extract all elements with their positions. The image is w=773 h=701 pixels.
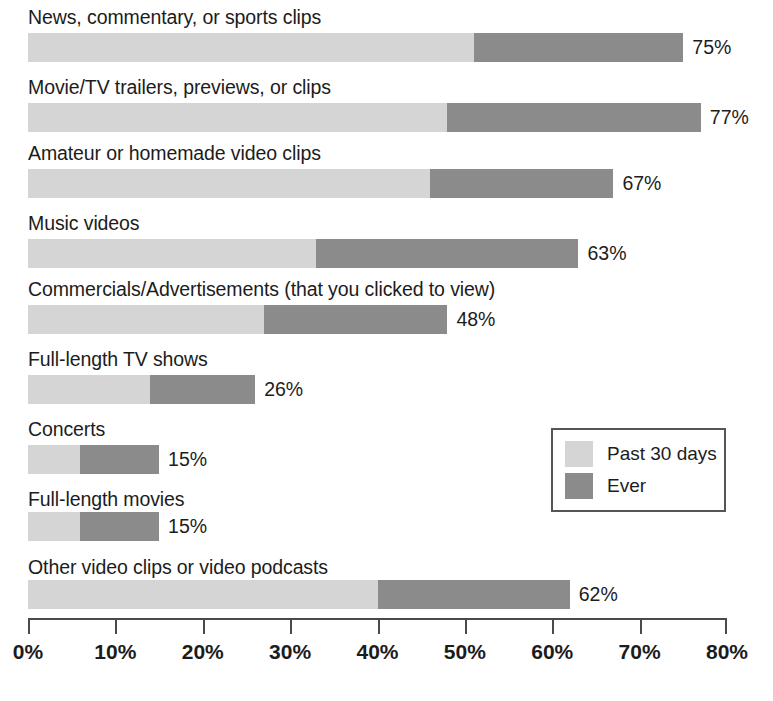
x-axis-tick [465,618,467,634]
bar-segment-past-30-days [28,580,378,609]
bar-value-label: 48% [456,305,495,334]
bar-track [28,375,255,404]
legend-swatch-past-30-days [565,441,593,467]
legend-label-ever: Ever [607,473,646,499]
x-axis-tick-label: 0% [13,640,43,664]
bar-segment-past-30-days [28,512,80,541]
bar-track [28,512,159,541]
legend-swatch-ever [565,473,593,499]
x-axis-tick [203,618,205,634]
category-label: Full-length TV shows [28,348,208,370]
x-axis-tick-label: 70% [619,640,661,664]
x-axis-tick-label: 80% [706,640,748,664]
bar-value-label: 62% [579,580,618,609]
bar-track [28,445,159,474]
bar-segment-past-30-days [28,445,80,474]
bar-segment-past-30-days [28,375,150,404]
x-axis-tick-label: 50% [444,640,486,664]
bar-track [28,33,683,62]
x-axis-tick-label: 30% [269,640,311,664]
legend-item-ever: Ever [565,471,646,501]
x-axis-tick-label: 10% [94,640,136,664]
bar-segment-past-30-days [28,169,430,198]
bar-segment-past-30-days [28,103,447,132]
bar-value-label: 63% [587,239,626,268]
x-axis-tick [640,618,642,634]
x-axis-tick [378,618,380,634]
bar-value-label: 75% [692,33,731,62]
bar-value-label: 26% [264,375,303,404]
bar-segment-past-30-days [28,239,316,268]
x-axis-tick [552,618,554,634]
category-label: News, commentary, or sports clips [28,6,321,28]
bar-segment-ever [430,169,613,198]
category-label: Amateur or homemade video clips [28,142,321,164]
bar-value-label: 77% [710,103,749,132]
bar-segment-ever [316,239,578,268]
bar-segment-ever [378,580,570,609]
x-axis: 0%10%20%30%40%50%60%70%80% [0,618,773,698]
bar-value-label: 15% [168,445,207,474]
bar-segment-past-30-days [28,33,474,62]
bar-track [28,239,578,268]
x-axis-tick [290,618,292,634]
bar-segment-ever [150,375,255,404]
x-axis-tick [28,618,30,634]
category-label: Concerts [28,418,105,440]
category-label: Commercials/Advertisements (that you cli… [28,278,495,300]
bar-segment-ever [80,512,159,541]
bar-segment-ever [474,33,684,62]
category-label: Full-length movies [28,488,184,510]
bar-segment-ever [447,103,700,132]
stacked-bar-chart: News, commentary, or sports clips75%Movi… [0,0,773,701]
bar-value-label: 67% [622,169,661,198]
bar-segment-past-30-days [28,305,264,334]
x-axis-tick-label: 20% [182,640,224,664]
category-label: Movie/TV trailers, previews, or clips [28,76,331,98]
bar-track [28,169,613,198]
x-axis-tick [725,618,727,634]
legend-item-past-30-days: Past 30 days [565,439,717,469]
chart-legend: Past 30 days Ever [551,428,726,512]
bar-track [28,580,570,609]
bar-track [28,305,447,334]
bar-value-label: 15% [168,512,207,541]
x-axis-tick [115,618,117,634]
category-label: Music videos [28,212,140,234]
x-axis-tick-label: 60% [531,640,573,664]
x-axis-tick-label: 40% [356,640,398,664]
bar-segment-ever [80,445,159,474]
bar-track [28,103,701,132]
bar-segment-ever [264,305,447,334]
category-label: Other video clips or video podcasts [28,556,328,578]
legend-label-past-30-days: Past 30 days [607,441,717,467]
